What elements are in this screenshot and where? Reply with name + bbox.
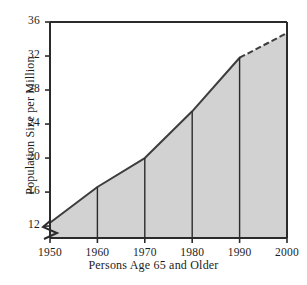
x-tick-label-1960: 1960: [77, 246, 117, 258]
x-tick-label-2000: 2000: [267, 246, 307, 258]
area-chart-plot: [0, 0, 307, 285]
chart-figure: 12162024283236 195019601970198019902000 …: [0, 0, 307, 285]
x-tick-label-1970: 1970: [125, 246, 165, 258]
y-tick-label-36: 36: [14, 14, 40, 26]
x-tick-label-1950: 1950: [30, 246, 70, 258]
x-tick-label-1990: 1990: [220, 246, 260, 258]
y-axis-title: Population Size per Million: [23, 26, 38, 226]
x-axis-title: Persons Age 65 and Older: [0, 258, 307, 273]
x-tick-label-1980: 1980: [172, 246, 212, 258]
